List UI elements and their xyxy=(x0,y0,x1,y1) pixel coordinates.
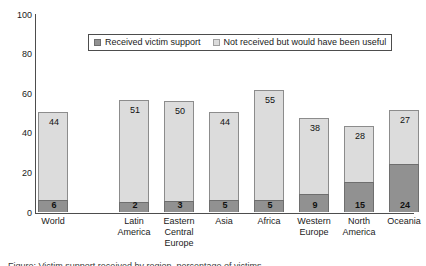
bar-segment-received-oceania: 24 xyxy=(389,164,419,212)
category-label-western-europe-line2: Europe xyxy=(291,227,337,238)
bar-value-label-received-oceania: 24 xyxy=(390,201,420,210)
bar-group-africa: 55 5 xyxy=(254,90,284,212)
category-label-world: World xyxy=(30,216,76,227)
category-label-north-america-line1: North xyxy=(336,216,382,227)
bar-value-label-received-asia: 5 xyxy=(210,201,240,210)
bar-value-label-not-received-north-america: 28 xyxy=(345,132,375,141)
category-label-latin-america-line2: America xyxy=(111,227,157,238)
bar-value-label-received-north-america: 15 xyxy=(345,201,375,210)
bar-stack-western-europe: 38 9 xyxy=(299,118,329,212)
category-label-north-america-line2: America xyxy=(336,227,382,238)
bar-value-label-received-world: 6 xyxy=(39,201,69,210)
bar-segment-received-africa: 5 xyxy=(254,200,284,212)
bar-value-label-received-eastern-central-europe: 3 xyxy=(165,201,195,210)
bar-stack-oceania: 27 24 xyxy=(389,110,419,212)
figure-caption-text: Figure: Victim support received by regio… xyxy=(8,261,408,266)
category-label-western-europe-line1: Western xyxy=(291,216,337,227)
bar-segment-not-received-asia: 44 xyxy=(209,112,239,200)
y-tick-label-100: 100 xyxy=(2,11,32,20)
category-label-oceania-line1: Oceania xyxy=(381,216,426,227)
category-label-asia: Asia xyxy=(201,216,247,227)
bar-group-eastern-central-europe: 50 3 xyxy=(164,101,194,212)
bar-value-label-not-received-oceania: 27 xyxy=(390,116,420,125)
bar-segment-received-north-america: 15 xyxy=(344,182,374,212)
y-tick-label-80: 80 xyxy=(2,50,32,59)
bar-value-label-not-received-western-europe: 38 xyxy=(300,124,330,133)
bar-group-western-europe: 38 9 xyxy=(299,118,329,212)
figure-caption-clipped: Figure: Victim support received by regio… xyxy=(8,261,408,266)
bar-stack-latin-america: 51 2 xyxy=(119,100,149,212)
y-tick-label-0: 0 xyxy=(2,209,32,218)
bar-value-label-received-western-europe: 9 xyxy=(300,201,330,210)
category-label-africa: Africa xyxy=(246,216,292,227)
category-label-eastern-central-europe-line3: Europe xyxy=(156,238,202,249)
bars-layer: 44 6 51 2 50 xyxy=(36,14,414,213)
bar-group-oceania: 27 24 xyxy=(389,110,419,212)
bar-value-label-not-received-eastern-central-europe: 50 xyxy=(165,107,195,116)
category-label-latin-america: Latin America xyxy=(111,216,157,238)
bar-segment-received-latin-america: 2 xyxy=(119,202,149,212)
bar-stack-asia: 44 5 xyxy=(209,112,239,212)
bar-value-label-received-latin-america: 2 xyxy=(120,201,150,210)
bar-segment-received-asia: 5 xyxy=(209,200,239,212)
bar-stack-north-america: 28 15 xyxy=(344,126,374,212)
y-tick-label-20: 20 xyxy=(2,169,32,178)
category-label-eastern-central-europe-line1: Eastern xyxy=(156,216,202,227)
bar-segment-not-received-western-europe: 38 xyxy=(299,118,329,194)
bar-group-north-america: 28 15 xyxy=(344,126,374,212)
bar-group-world: 44 6 xyxy=(38,112,68,212)
bar-segment-not-received-world: 44 xyxy=(38,112,68,200)
category-label-eastern-central-europe: Eastern Central Europe xyxy=(156,216,202,249)
x-axis-line xyxy=(35,213,414,214)
bar-value-label-not-received-asia: 44 xyxy=(210,118,240,127)
bar-segment-not-received-latin-america: 51 xyxy=(119,100,149,202)
bar-segment-not-received-oceania: 27 xyxy=(389,110,419,164)
category-label-latin-america-line1: Latin xyxy=(111,216,157,227)
bar-stack-world: 44 6 xyxy=(38,112,68,212)
bar-segment-not-received-north-america: 28 xyxy=(344,126,374,182)
x-axis-category-labels: World Latin America Eastern Central Euro… xyxy=(36,216,414,260)
y-axis-tick-labels: 100 80 60 40 20 0 xyxy=(0,0,32,266)
category-label-world-line1: World xyxy=(30,216,76,227)
category-label-asia-line1: Asia xyxy=(201,216,247,227)
category-label-north-america: North America xyxy=(336,216,382,238)
bar-value-label-received-africa: 5 xyxy=(255,201,285,210)
bar-segment-received-eastern-central-europe: 3 xyxy=(164,201,194,212)
bar-group-asia: 44 5 xyxy=(209,112,239,212)
bar-value-label-not-received-world: 44 xyxy=(39,118,69,127)
y-tick-label-40: 40 xyxy=(2,129,32,138)
y-tick-label-60: 60 xyxy=(2,90,32,99)
category-label-western-europe: Western Europe xyxy=(291,216,337,238)
bar-segment-not-received-africa: 55 xyxy=(254,90,284,200)
bar-segment-received-world: 6 xyxy=(38,200,68,212)
category-label-africa-line1: Africa xyxy=(246,216,292,227)
category-label-oceania: Oceania xyxy=(381,216,426,227)
category-label-eastern-central-europe-line2: Central xyxy=(156,227,202,238)
bar-value-label-not-received-latin-america: 51 xyxy=(120,106,150,115)
bar-value-label-not-received-africa: 55 xyxy=(255,96,285,105)
bar-stack-eastern-central-europe: 50 3 xyxy=(164,101,194,212)
bar-segment-not-received-eastern-central-europe: 50 xyxy=(164,101,194,201)
bar-segment-received-western-europe: 9 xyxy=(299,194,329,212)
bar-group-latin-america: 51 2 xyxy=(119,100,149,212)
bar-stack-africa: 55 5 xyxy=(254,90,284,212)
